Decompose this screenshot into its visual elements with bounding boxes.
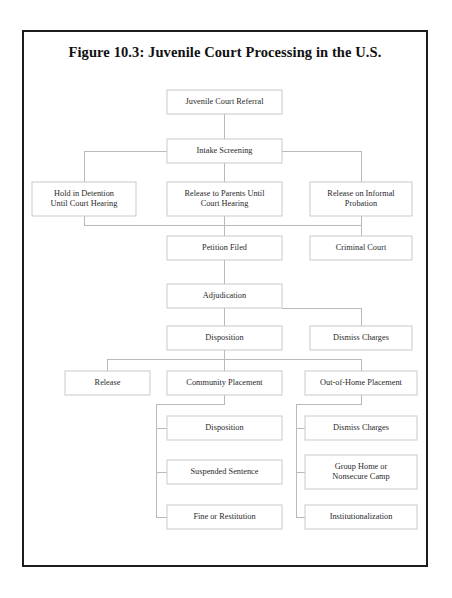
node-label: Court Hearing: [201, 199, 249, 208]
connector-line: [282, 151, 361, 182]
figure-page: Figure 10.3: Juvenile Court Processing i…: [0, 0, 452, 598]
connector-line: [225, 359, 362, 371]
flow-node-out-of-home-placement[interactable]: Out-of-Home Placement: [305, 371, 417, 395]
node-label: Nonsecure Camp: [332, 472, 389, 481]
node-label: Release on Informal: [327, 189, 395, 198]
connector-line: [84, 151, 167, 182]
flow-node-release-to-parents[interactable]: Release to Parents UntilCourt Hearing: [167, 182, 282, 216]
node-label: Hold in Detention: [54, 189, 115, 198]
flow-node-juvenile-court-referral[interactable]: Juvenile Court Referral: [167, 90, 282, 114]
node-label: Release: [95, 378, 121, 387]
flow-node-dismiss-charges-1[interactable]: Dismiss Charges: [310, 326, 412, 350]
node-label: Suspended Sentence: [191, 467, 259, 476]
node-label: Disposition: [205, 423, 244, 432]
connector-line: [156, 395, 225, 517]
flow-node-adjudication[interactable]: Adjudication: [167, 284, 282, 308]
node-label: Juvenile Court Referral: [186, 97, 265, 106]
node-label: Group Home or: [335, 462, 388, 471]
flow-node-disposition-2[interactable]: Disposition: [167, 416, 282, 440]
flow-node-release-on-informal-probation[interactable]: Release on InformalProbation: [310, 182, 412, 216]
node-label: Probation: [345, 199, 378, 208]
node-label: Dismiss Charges: [333, 333, 389, 342]
connector-line: [107, 359, 225, 371]
flow-node-release[interactable]: Release: [65, 371, 150, 395]
node-label: Until Court Hearing: [51, 199, 118, 208]
flow-node-disposition-1[interactable]: Disposition: [167, 326, 282, 350]
connector-line: [84, 216, 361, 236]
flow-node-group-home-or-nonsecure-camp[interactable]: Group Home orNonsecure Camp: [305, 455, 417, 489]
connector-line: [282, 308, 361, 326]
flow-node-criminal-court[interactable]: Criminal Court: [310, 236, 412, 260]
node-label: Community Placement: [186, 378, 263, 387]
flow-node-hold-in-detention[interactable]: Hold in DetentionUntil Court Hearing: [32, 182, 136, 216]
node-label: Adjudication: [203, 291, 247, 300]
node-label: Dismiss Charges: [333, 423, 389, 432]
node-label: Fine or Restitution: [193, 512, 256, 521]
node-label: Release to Parents Until: [185, 189, 266, 198]
flow-node-petition-filed[interactable]: Petition Filed: [167, 236, 282, 260]
flow-node-suspended-sentence[interactable]: Suspended Sentence: [167, 460, 282, 484]
flow-node-community-placement[interactable]: Community Placement: [167, 371, 282, 395]
node-label: Petition Filed: [202, 243, 248, 252]
node-label: Out-of-Home Placement: [320, 378, 402, 387]
node-label: Disposition: [205, 333, 244, 342]
flow-node-intake-screening[interactable]: Intake Screening: [167, 139, 282, 163]
flow-node-institutionalization[interactable]: Institutionalization: [305, 505, 417, 529]
flowchart-canvas: Juvenile Court ReferralIntake ScreeningH…: [0, 0, 452, 598]
flow-node-dismiss-charges-2[interactable]: Dismiss Charges: [305, 416, 417, 440]
node-label: Intake Screening: [197, 146, 253, 155]
node-label: Criminal Court: [336, 243, 387, 252]
flow-node-fine-or-restitution[interactable]: Fine or Restitution: [167, 505, 282, 529]
node-label: Institutionalization: [330, 512, 394, 521]
